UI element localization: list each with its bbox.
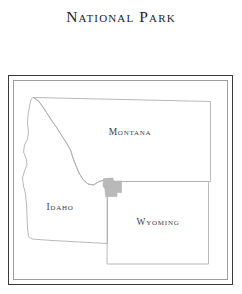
state-outline-montana bbox=[34, 98, 211, 186]
state-label-montana: Montana bbox=[109, 127, 152, 137]
state-outline-idaho bbox=[23, 98, 108, 244]
map-illustration: National Park Montana Idaho Wyoming bbox=[0, 0, 242, 294]
state-label-wyoming: Wyoming bbox=[137, 217, 180, 227]
yellowstone-national-park-area bbox=[103, 178, 122, 197]
state-map-graphic bbox=[0, 0, 242, 294]
state-label-idaho: Idaho bbox=[46, 202, 73, 212]
